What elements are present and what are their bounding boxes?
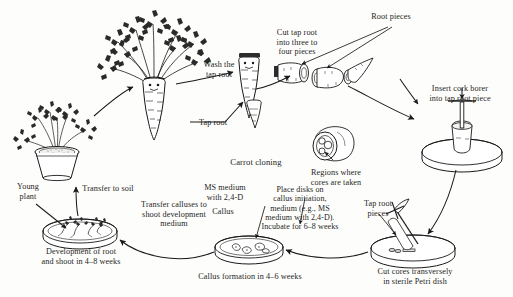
label-root-pieces: Root pieces [363,12,419,22]
label-transfer-calluses: Transfer calluses to shoot development m… [118,200,230,229]
potted-young-plant-illustration [13,101,97,181]
label-cut-tap-root: Cut tap root into three to four pieces [267,28,327,57]
arrow-young-to-mature [94,87,133,116]
label-callus-formation: Callus formation in 4–6 weeks [176,272,324,282]
label-development-root-shoot: Development of root and shoot in 4–8 wee… [16,247,146,266]
label-wash-the-tap-root: Wash the tap root [196,60,242,79]
label-place-disks-on-callus-medium: Place disks on callus initiation, medium… [254,185,346,231]
arrow-place-disks [286,250,368,258]
arrow-insert-cork-borer [348,86,414,119]
figure-canvas: Wash the tap root Tap root Cut tap root … [0,0,513,297]
root-cross-section-illustration [313,127,354,161]
label-cut-cores-transversely: Cut cores transversely in sterile Petri … [352,267,478,286]
label-young-plant: Young plant [8,182,48,201]
shoot-development-dish-illustration [43,216,117,249]
label-tap-root-pieces: Tap root pieces [356,199,400,218]
cut-root-pieces-illustration [274,58,373,88]
leader-root-pieces-b [327,27,392,68]
arrow-to-cut-cores [428,170,456,234]
callus-dish-illustration [215,236,283,264]
label-insert-cork-borer: Insert cork borer into tap root piece [411,84,509,103]
label-transfer-to-soil: Transfer to soil [70,184,146,194]
figure-title-carrot-cloning: Carrot cloning [216,158,296,168]
label-tap-root: Tap root [190,118,236,128]
cork-borer-insertion-illustration [422,100,502,173]
